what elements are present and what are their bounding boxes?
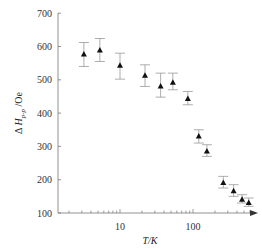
data-point: [168, 73, 178, 90]
data-points: [79, 39, 254, 207]
y-tick-label: 600: [37, 41, 52, 52]
x-axis-label: T/K: [142, 235, 158, 246]
triangle-marker-icon: [196, 133, 202, 139]
triangle-marker-icon: [142, 72, 148, 78]
y-ticks: 100200300400500600700: [37, 8, 61, 219]
data-point: [237, 195, 247, 203]
y-tick-label: 700: [37, 8, 52, 19]
triangle-marker-icon: [170, 79, 176, 85]
triangle-marker-icon: [246, 200, 252, 206]
data-point: [115, 53, 125, 79]
x-ticks: 10100: [69, 209, 250, 232]
y-tick-label: 500: [37, 74, 52, 85]
triangle-marker-icon: [81, 51, 87, 57]
data-point: [202, 145, 212, 157]
y-tick-label: 300: [37, 141, 52, 152]
x-tick-label: 100: [186, 221, 201, 232]
triangle-marker-icon: [97, 47, 103, 53]
x-tick-label: 10: [115, 221, 125, 232]
y-tick-label: 200: [37, 174, 52, 185]
data-point: [156, 73, 166, 97]
triangle-marker-icon: [185, 96, 191, 102]
triangle-marker-icon: [117, 62, 123, 68]
chart: 100200300400500600700 10100 Δ Hp-p /Oe T…: [0, 0, 262, 249]
triangle-marker-icon: [204, 148, 210, 154]
y-tick-label: 400: [37, 108, 52, 119]
axes: [58, 13, 258, 216]
x-axis-arrow-icon: [250, 210, 258, 216]
y-axis-label: Δ Hp-p /Oe: [13, 91, 27, 133]
triangle-marker-icon: [220, 180, 226, 186]
data-point: [244, 198, 254, 206]
data-point: [79, 43, 89, 67]
data-point: [95, 39, 105, 62]
triangle-marker-icon: [231, 188, 237, 194]
triangle-marker-icon: [158, 83, 164, 89]
data-point: [183, 91, 193, 104]
data-point: [194, 130, 204, 143]
triangle-marker-icon: [239, 196, 245, 202]
data-point: [218, 176, 228, 188]
y-tick-label: 100: [37, 208, 52, 219]
data-point: [140, 65, 150, 87]
